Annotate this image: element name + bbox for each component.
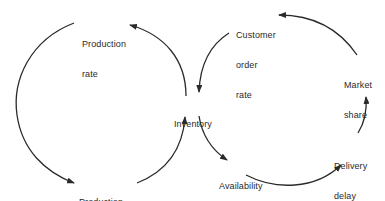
edge-inventory-to-production-rate [130,25,186,96]
node-inventory: Inventory [174,99,212,139]
node-label-line: rate [82,69,126,79]
node-label-line: Customer [236,30,276,40]
node-label-line: Availability [219,181,263,191]
node-label-line: Production [79,197,128,201]
node-production-completions: Production completions [79,177,128,201]
node-delivery-delay: Delivery delay [334,141,367,201]
node-production-rate: Production rate [82,19,126,89]
node-label-line: Delivery [334,161,367,171]
edge-market-share-to-customer-order-rate [279,15,357,55]
node-label-line: Market [344,80,372,90]
node-label-line: Inventory [174,119,212,129]
node-label-line: share [344,110,372,120]
node-label-line: delay [334,191,367,201]
node-market-share: Market share [344,60,372,130]
node-label-line: order [236,60,276,70]
node-label-line: rate [236,90,276,100]
node-availability: Availability [219,161,263,201]
edge-production-rate-to-production-completions [16,23,74,183]
edge-customer-order-rate-to-inventory [199,33,229,92]
node-customer-order-rate: Customer order rate [236,10,276,110]
node-label-line: Production [82,39,126,49]
